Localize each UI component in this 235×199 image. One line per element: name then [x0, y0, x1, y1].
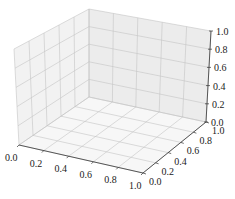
y-tick-mark [156, 163, 159, 164]
y-tick-label: 0.0 [149, 176, 162, 187]
y-tick-mark [168, 153, 171, 154]
x-tick-label: 1.0 [129, 180, 142, 191]
x-tick-label: 0.6 [79, 169, 92, 180]
z-tick-label: 0.4 [213, 81, 226, 92]
z-tick-label: 0.8 [215, 44, 228, 55]
y-tick-mark [181, 142, 184, 143]
x-tick-mark [116, 167, 118, 169]
z-tick-label: 1.0 [216, 26, 229, 37]
y-tick-label: 0.4 [174, 156, 187, 167]
x-tick-label: 0.0 [5, 152, 18, 163]
x-tick-label: 0.2 [30, 158, 43, 169]
x-tick-mark [67, 156, 69, 158]
y-tick-label: 0.8 [199, 135, 212, 146]
y-tick-mark [143, 173, 146, 174]
y-tick-label: 0.6 [187, 145, 200, 156]
x-tick-mark [91, 162, 93, 164]
x-tick-mark [141, 173, 143, 175]
x-tick-label: 0.4 [55, 163, 68, 174]
z-tick-label: 0.2 [212, 99, 225, 110]
3d-axes-canvas: 0.00.20.40.60.81.0 0.00.20.40.60.81.0 0.… [0, 0, 235, 199]
x-tick-mark [42, 151, 44, 153]
z-tick-label: 0.0 [211, 117, 224, 128]
x-tick-label: 0.8 [104, 174, 117, 185]
x-tick-mark [17, 145, 19, 147]
z-tick-label: 0.6 [214, 62, 227, 73]
y-tick-mark [193, 132, 196, 133]
y-tick-label: 0.2 [162, 166, 175, 177]
3d-axes-figure: 0.00.20.40.60.81.0 0.00.20.40.60.81.0 0.… [0, 0, 235, 199]
